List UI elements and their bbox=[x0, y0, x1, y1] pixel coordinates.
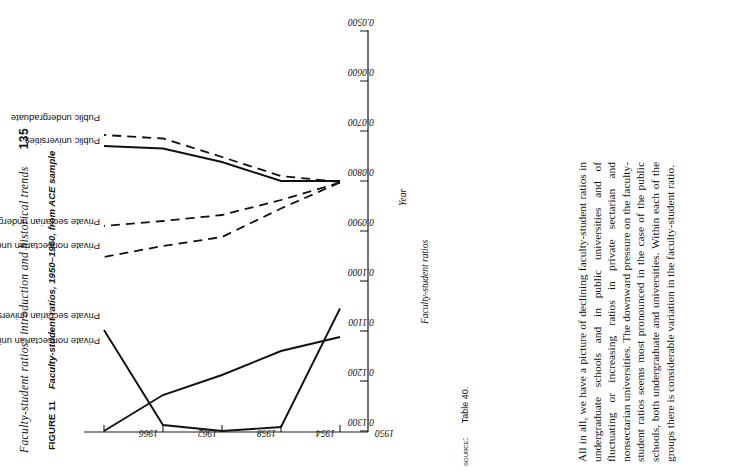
ytick-7: 0.0600 bbox=[348, 67, 374, 77]
ytick-6: 0.0700 bbox=[348, 117, 374, 127]
series-label-public-undergraduate: Public undergraduate bbox=[11, 113, 100, 124]
ytick-5: 0.0800 bbox=[348, 167, 374, 177]
x-axis-title: Year bbox=[398, 189, 408, 206]
ytick-3: 0.1000 bbox=[348, 267, 374, 277]
ytick-2: 0.1100 bbox=[349, 317, 374, 327]
ytick-8: 0.0500 bbox=[348, 17, 374, 27]
running-head: Faculty-student ratios: introduction and… bbox=[17, 128, 31, 453]
source-label: source: bbox=[460, 438, 470, 466]
body-paragraph: All in all, we have a picture of declini… bbox=[575, 162, 677, 462]
series-label-private-nonsectarian-universities: Private nonsectarian universities bbox=[0, 336, 100, 347]
xtick-1966: 1966 bbox=[139, 428, 158, 438]
series-line-private-sectarian-universities bbox=[104, 309, 340, 432]
series-label-private-nonsectarian-undergraduate: Private nonsectarian undergraduate bbox=[0, 241, 100, 252]
ytick-0: 0.1300 bbox=[348, 417, 374, 427]
y-axis-title: Faculty-student ratios bbox=[420, 240, 430, 324]
ytick-1: 0.1200 bbox=[348, 367, 374, 377]
xtick-1954: 1954 bbox=[316, 428, 335, 438]
xtick-1958: 1958 bbox=[257, 428, 276, 438]
series-line-private-sectarian-undergraduate bbox=[104, 183, 340, 227]
series-line-private-nonsectarian-universities bbox=[104, 337, 340, 431]
figure-caption: FIGURE 11 Faculty-student ratios, 1950–1… bbox=[46, 151, 57, 450]
series-label-private-sectarian-universities: Private sectarian universities bbox=[0, 311, 100, 322]
book-page: Faculty-student ratios: introduction and… bbox=[0, 0, 751, 474]
figure-label: FIGURE 11 bbox=[46, 401, 57, 450]
ytick-4: 0.0900 bbox=[348, 217, 374, 227]
running-head-text: Faculty-student ratios: introduction and… bbox=[18, 166, 30, 453]
xtick-1950: 1950 bbox=[375, 428, 394, 438]
series-label-public-universities: Public universities bbox=[25, 136, 100, 147]
xtick-1962: 1962 bbox=[198, 428, 217, 438]
series-line-public-universities bbox=[104, 146, 340, 181]
chart-svg bbox=[68, 22, 440, 442]
source-value: Table 40. bbox=[460, 387, 470, 424]
body-text-column: All in all, we have a picture of declini… bbox=[575, 162, 677, 462]
series-line-public-undergraduate bbox=[104, 135, 340, 182]
figure-source: source: Table 40. bbox=[460, 387, 470, 466]
series-label-private-sectarian-undergraduate: Private sectarian undergraduate bbox=[0, 217, 100, 228]
chart-figure: Faculty-student ratios Year bbox=[68, 22, 440, 442]
figure-caption-text: Faculty-student ratios, 1950–1960, from … bbox=[46, 151, 57, 390]
